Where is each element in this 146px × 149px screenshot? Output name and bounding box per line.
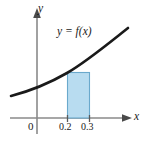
- x-axis-label: x: [134, 111, 139, 123]
- shaded-rectangle-region: [68, 73, 90, 119]
- x-tick-label-0-3: 0.3: [81, 122, 94, 132]
- origin-label: 0: [28, 121, 34, 132]
- y-axis-label: y: [38, 3, 43, 15]
- x-tick-label-0-2: 0.2: [59, 122, 72, 132]
- function-annotation-label: y = f(x): [57, 26, 92, 38]
- x-axis-arrowhead: [122, 114, 132, 122]
- graph-canvas: [0, 0, 146, 149]
- function-graph-figure: y x y = f(x) 0 0.2 0.3: [0, 0, 146, 149]
